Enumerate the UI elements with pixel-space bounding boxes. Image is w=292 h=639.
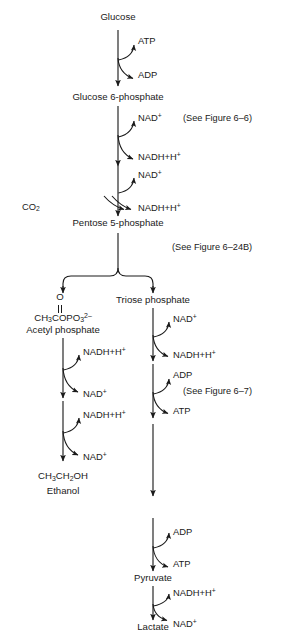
cofactor-nad-in-1-charge: + bbox=[158, 112, 162, 119]
cofactor-nad-in-1: NAD+ bbox=[138, 112, 162, 122]
cofactor-adp-in-2: ADP bbox=[173, 370, 192, 380]
cofactor-nadh-in-left-1-text: NADH+H bbox=[83, 346, 122, 357]
cofactor-nadh-in-lactate-charge: + bbox=[212, 587, 216, 594]
cofactor-atp-out-2: ATP bbox=[173, 406, 191, 416]
cofactor-nadh-out-2-charge: + bbox=[177, 202, 181, 209]
cofactor-nad-out-left-1-text: NAD bbox=[83, 388, 103, 399]
acetyl-phosphate-formula: CH3COPO32– bbox=[34, 312, 92, 323]
cofactor-nadh-out-3-text: NADH+H bbox=[173, 349, 212, 360]
acetyl-phosphate-formula-charge: 2– bbox=[84, 312, 92, 319]
metabolite-pyruvate: Pyruvate bbox=[134, 573, 172, 583]
cofactor-nad-in-3-text: NAD bbox=[173, 313, 193, 324]
cofactor-nad-in-2: NAD+ bbox=[138, 169, 162, 179]
cofactor-nad-out-left-2-charge: + bbox=[103, 451, 107, 458]
cofactor-nadh-in-left-1: NADH+H+ bbox=[83, 346, 126, 356]
cofactor-nadh-out-2: NADH+H+ bbox=[138, 202, 181, 212]
cofactor-nadh-in-left-2-charge: + bbox=[122, 409, 126, 416]
cofactor-nad-out-lactate-charge: + bbox=[193, 618, 197, 625]
reference-figure-6-6: (See Figure 6–6) bbox=[183, 114, 252, 124]
metabolite-glucose-6-phosphate: Glucose 6-phosphate bbox=[72, 92, 163, 102]
cofactor-nad-out-lactate-text: NAD bbox=[173, 618, 193, 629]
cofactor-nad-in-1-text: NAD bbox=[138, 112, 158, 123]
cofactor-nad-out-left-2-text: NAD bbox=[83, 451, 103, 462]
cofactor-nad-in-3: NAD+ bbox=[173, 313, 197, 323]
ethanol-formula-part3: OH bbox=[74, 470, 88, 481]
ethanol-formula-part2: CH bbox=[56, 470, 70, 481]
cofactor-nad-out-lactate: NAD+ bbox=[173, 618, 197, 628]
acetyl-phosphate-formula-part2: COPO bbox=[52, 312, 80, 323]
cofactor-nadh-in-left-2-text: NADH+H bbox=[83, 409, 122, 420]
cofactor-nad-in-2-text: NAD bbox=[138, 169, 158, 180]
ethanol-formula: CH3CH2OH bbox=[38, 471, 88, 482]
acetyl-phosphate-formula-part1: CH bbox=[34, 312, 48, 323]
cofactor-nadh-in-lactate-text: NADH+H bbox=[173, 587, 212, 598]
ethanol-formula-part1: CH bbox=[38, 470, 52, 481]
cofactor-nadh-in-left-2: NADH+H+ bbox=[83, 409, 126, 419]
cofactor-nadh-out-3: NADH+H+ bbox=[173, 349, 216, 359]
cofactor-co2-out-text: CO bbox=[22, 201, 36, 212]
cofactor-nadh-out-1: NADH+H+ bbox=[138, 151, 181, 161]
cofactor-adp-in-3: ADP bbox=[173, 527, 192, 537]
cofactor-nadh-out-1-charge: + bbox=[177, 151, 181, 158]
cofactor-atp-in-1: ATP bbox=[138, 36, 156, 46]
cofactor-nadh-in-left-1-charge: + bbox=[122, 346, 126, 353]
cofactor-adp-out-1: ADP bbox=[138, 70, 157, 80]
metabolite-pentose-5-phosphate: Pentose 5-phosphate bbox=[72, 218, 163, 228]
cofactor-nadh-out-2-text: NADH+H bbox=[138, 202, 177, 213]
cofactor-atp-out-3: ATP bbox=[173, 559, 191, 569]
cofactor-nad-out-left-1-charge: + bbox=[103, 388, 107, 395]
metabolite-acetyl-phosphate: Acetyl phosphate bbox=[26, 325, 100, 335]
cofactor-nadh-in-lactate: NADH+H+ bbox=[173, 587, 216, 597]
metabolite-lactate: Lactate bbox=[137, 622, 168, 632]
reference-figure-6-24b: (See Figure 6–24B) bbox=[172, 243, 252, 253]
cofactor-nad-out-left-1: NAD+ bbox=[83, 388, 107, 398]
reference-figure-6-7: (See Figure 6–7) bbox=[183, 387, 252, 397]
metabolite-triose-phosphate: Triose phosphate bbox=[116, 295, 190, 305]
cofactor-nadh-out-3-charge: + bbox=[212, 349, 216, 356]
metabolite-glucose: Glucose bbox=[100, 12, 135, 22]
cofactor-co2-out: CO2 bbox=[22, 202, 40, 213]
cofactor-nadh-out-1-text: NADH+H bbox=[138, 151, 177, 162]
cropped-caption-remnant bbox=[4, 632, 7, 639]
cofactor-nad-out-left-2: NAD+ bbox=[83, 451, 107, 461]
cofactor-nad-in-3-charge: + bbox=[193, 313, 197, 320]
acetyl-phosphate-carbonyl-oxygen: O bbox=[56, 292, 63, 302]
metabolite-ethanol: Ethanol bbox=[47, 486, 80, 496]
cofactor-co2-out-sub: 2 bbox=[36, 205, 40, 212]
cofactor-nad-in-2-charge: + bbox=[158, 169, 162, 176]
